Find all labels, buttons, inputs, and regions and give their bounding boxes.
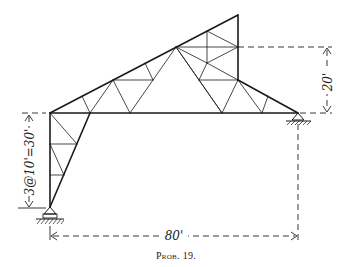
web-r1 — [238, 80, 262, 113]
right-support — [286, 113, 311, 125]
web-l4 — [113, 80, 130, 113]
web-l6 — [145, 63, 153, 80]
dim-label-left-height: 3@10'=30' — [23, 129, 37, 196]
support-base-left — [43, 214, 57, 218]
web-l7 — [153, 47, 176, 80]
column-web — [50, 113, 77, 175]
ground-hatch-right — [287, 121, 311, 125]
figure-caption: Prob. 19. — [0, 250, 352, 261]
web-l2 — [90, 80, 113, 113]
web-l1 — [82, 96, 90, 113]
left-support — [36, 207, 64, 224]
web-p8 — [199, 63, 207, 80]
web-p5 — [207, 47, 238, 63]
dimension-lines — [18, 47, 335, 242]
dim-label-right-height: 20' — [321, 73, 335, 93]
web-p12 — [222, 80, 238, 113]
dim-label-span: 80' — [165, 229, 184, 243]
column-diagonal-2 — [50, 144, 64, 175]
roof-web-right — [238, 80, 268, 113]
arrow-down-20ft — [323, 106, 331, 112]
web-r2 — [262, 96, 268, 113]
support-triangle-right — [292, 113, 304, 120]
left-top-chord — [50, 15, 238, 113]
web-p6 — [207, 63, 238, 80]
web-p3 — [207, 31, 238, 47]
left-column-inclined — [50, 113, 90, 207]
caption-text: Prob. 19. — [156, 250, 196, 261]
truss-diagram: 20' 3@10'=30' 80' — [0, 0, 352, 267]
column-diagonal-1 — [50, 113, 77, 144]
ground-hatch-left — [37, 219, 64, 224]
roof-web-left — [82, 47, 176, 113]
web-p4 — [176, 47, 207, 63]
web-l5 — [130, 80, 153, 113]
